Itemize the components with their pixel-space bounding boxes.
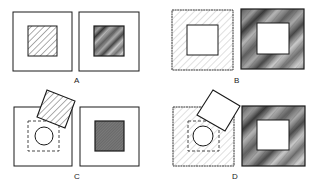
- dark-square: [95, 121, 124, 151]
- white-square-hole: [187, 25, 218, 55]
- panel-b: [172, 9, 304, 70]
- panel-label-d: D: [232, 172, 238, 181]
- white-square-hole: [257, 120, 289, 150]
- panel-label-c: C: [74, 172, 80, 181]
- circle: [35, 127, 53, 145]
- panel-label-a: A: [74, 76, 79, 85]
- panel-c-left: [14, 90, 75, 166]
- panel-c: [14, 90, 139, 166]
- hatched-square: [28, 26, 57, 56]
- panel-a-left: [13, 12, 72, 71]
- panel-a-right: [79, 12, 139, 71]
- panel-c-right: [80, 107, 139, 166]
- panel-b-right: [241, 9, 304, 69]
- white-square-hole: [257, 23, 289, 54]
- panel-b-left: [172, 10, 233, 70]
- panel-d: [173, 90, 305, 166]
- figure-canvas: [0, 0, 316, 187]
- panel-d-right: [242, 106, 305, 166]
- panel-label-b: B: [234, 76, 239, 85]
- panel-a: [13, 12, 139, 71]
- circle: [193, 126, 213, 146]
- panel-d-left: [173, 90, 240, 166]
